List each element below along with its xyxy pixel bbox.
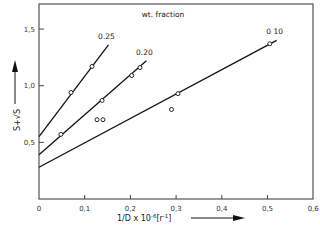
fit-line-0.10 — [39, 40, 277, 167]
data-point-unassigned — [101, 118, 105, 122]
series-label-0.25: 0.25 — [98, 32, 115, 41]
y-axis-title: S+√S — [12, 60, 22, 131]
x-tick-label: 0 — [37, 205, 41, 213]
y-tick-label: 1,5 — [24, 26, 35, 34]
data-point-0.25 — [69, 90, 73, 94]
data-point-0.10 — [176, 92, 180, 96]
y-tick-label: 0,5 — [24, 139, 35, 147]
chart: 00,10,20,30,40,50,6 0,51,01,5 0.250.200 … — [0, 0, 320, 227]
x-tick-label: 0,6 — [308, 205, 320, 213]
x-axis-title: 1/D x 10-6[r-1] — [117, 213, 245, 223]
data-point-0.20 — [59, 132, 63, 136]
legend-title: wt. fraction — [142, 10, 185, 19]
svg-text:S+√S: S+√S — [13, 109, 22, 131]
x-axis-arrow-icon — [233, 215, 245, 221]
data-point-0.10 — [268, 42, 272, 46]
x-tick-label: 0,2 — [125, 205, 136, 213]
fit-lines — [39, 40, 277, 167]
data-point-0.20 — [100, 98, 104, 102]
svg-text:1/D x 10-6[r-1]: 1/D x 10-6[r-1] — [117, 213, 171, 223]
data-points — [59, 42, 272, 137]
data-point-0.20 — [130, 74, 134, 78]
series-label-0.20: 0.20 — [136, 48, 153, 57]
x-axis-ticks: 00,10,20,30,40,50,6 — [37, 195, 320, 213]
y-axis-arrow-icon — [12, 60, 18, 72]
x-tick-label: 0,4 — [216, 205, 228, 213]
x-tick-label: 0,3 — [171, 205, 182, 213]
fit-line-0.25 — [39, 45, 108, 137]
y-axis-ticks: 0,51,01,5 — [24, 26, 44, 147]
data-point-unassigned — [95, 118, 99, 122]
x-axis-title-unit-close: ] — [168, 214, 171, 223]
y-tick-label: 1,0 — [24, 82, 35, 90]
x-axis-title-main: 1/D x 10 — [117, 214, 151, 223]
series-label-0.10: 0 10 — [266, 27, 283, 36]
x-tick-label: 0,5 — [262, 205, 273, 213]
data-point-unassigned — [170, 107, 174, 111]
data-point-0.20 — [138, 66, 142, 70]
data-point-0.25 — [90, 64, 94, 68]
x-tick-label: 0,1 — [79, 205, 90, 213]
